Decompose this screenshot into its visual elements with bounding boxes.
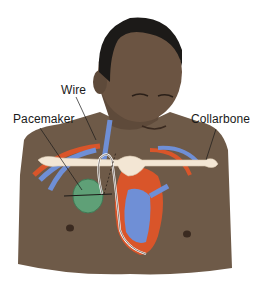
wire-label: Wire	[61, 84, 86, 96]
pacemaker-label: Pacemaker	[13, 113, 75, 125]
nipple-right	[183, 231, 191, 238]
collarbone-label: Collarbone	[191, 113, 250, 125]
pacemaker-diagram: Wire Pacemaker Collarbone	[0, 0, 262, 281]
torso-illustration	[0, 0, 262, 281]
heart-veins	[124, 189, 150, 243]
nipple-left	[66, 225, 74, 232]
